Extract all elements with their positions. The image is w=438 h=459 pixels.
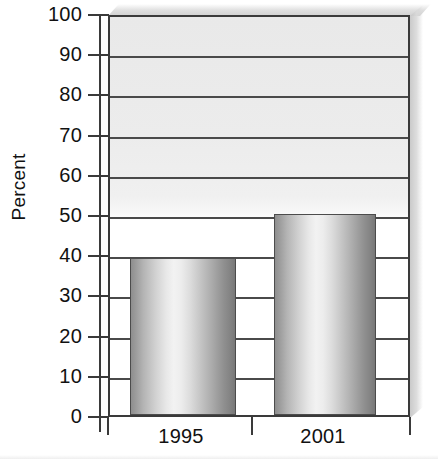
- x-tick-label-2001: 2001: [263, 425, 383, 448]
- x-tick-mark-2: [409, 417, 411, 435]
- x-tick-mark-1: [251, 417, 253, 435]
- x-tick-mark-0: [107, 417, 109, 435]
- bar-chart: Percent 100 90 80 70 60 50 40 30 20 10 0…: [0, 0, 438, 459]
- x-tick-label-1995: 1995: [121, 425, 241, 448]
- x-axis-tick-marks: [0, 0, 438, 459]
- scan-edge-artifact: [0, 455, 438, 459]
